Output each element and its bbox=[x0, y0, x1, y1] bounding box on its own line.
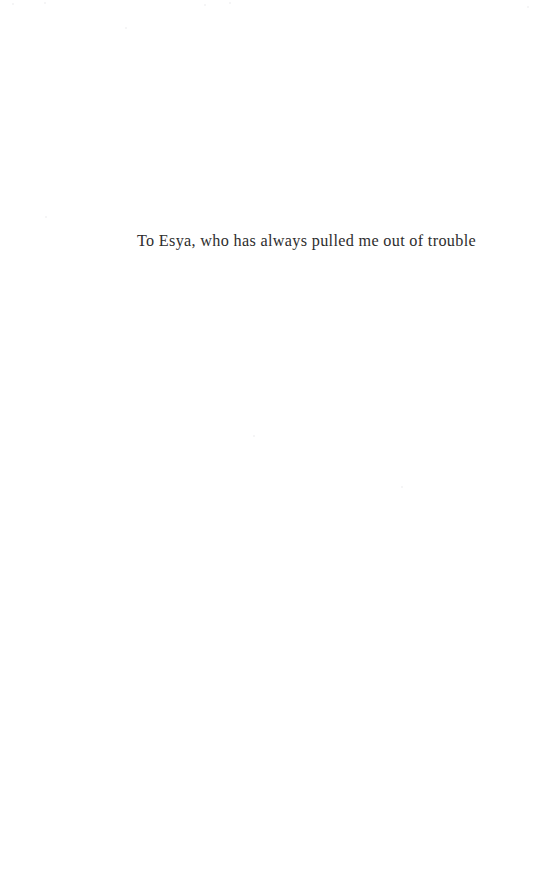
scan-speck bbox=[229, 2, 231, 4]
dedication-block: To Esya, who has always pulled me out of… bbox=[0, 231, 537, 251]
scan-speck bbox=[44, 2, 46, 4]
scan-speck bbox=[125, 27, 127, 29]
dedication-text: To Esya, who has always pulled me out of… bbox=[61, 231, 476, 251]
scan-speck bbox=[204, 4, 206, 6]
dedication-page: To Esya, who has always pulled me out of… bbox=[0, 0, 537, 882]
scan-speck bbox=[527, 6, 529, 8]
scan-speck bbox=[401, 486, 403, 488]
scan-speck bbox=[12, 3, 14, 5]
scan-speck bbox=[45, 216, 47, 218]
scan-speck bbox=[253, 435, 255, 437]
